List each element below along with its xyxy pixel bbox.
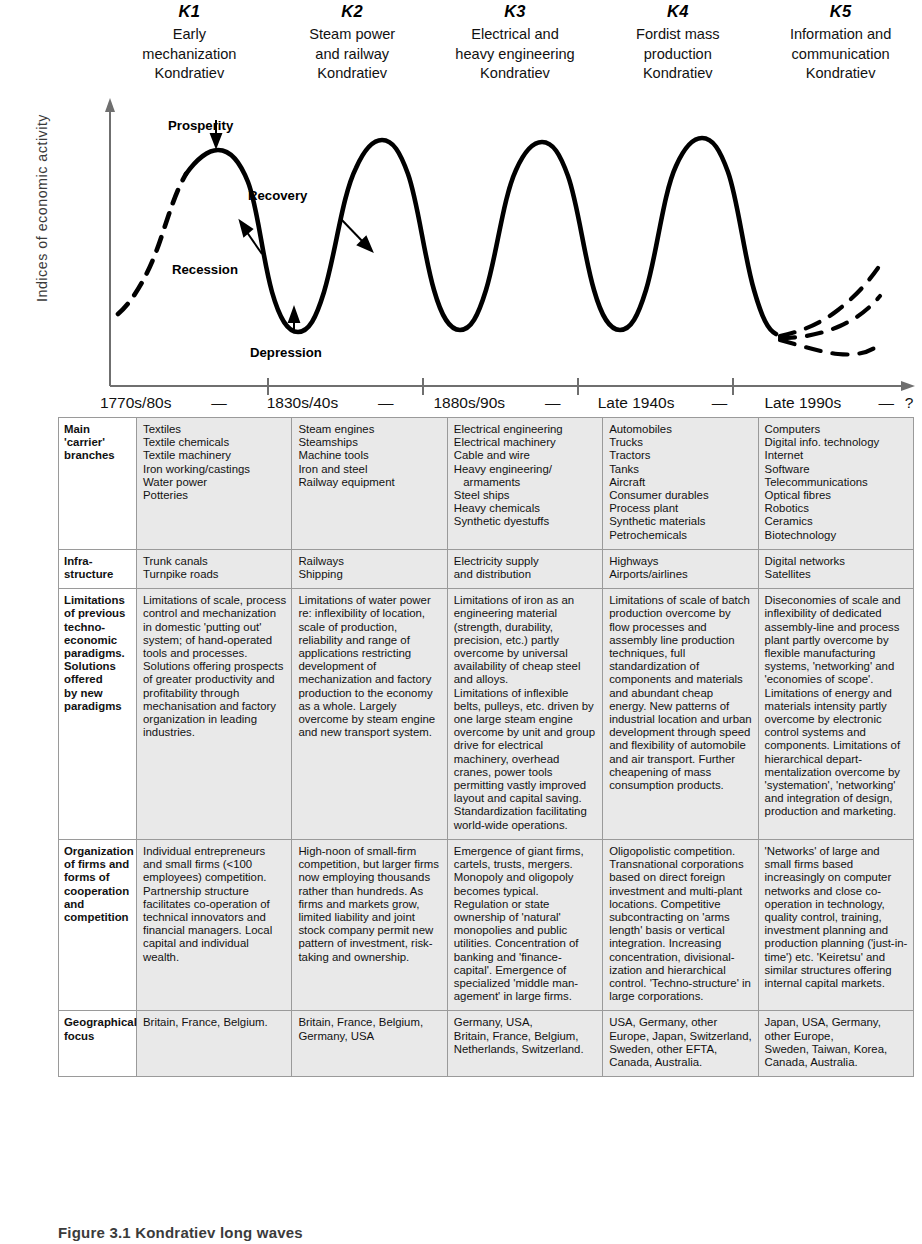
cell-organization-k2: High-noon of small-firm competition, but… [292, 839, 447, 1010]
x-tick-dash: — [209, 394, 229, 412]
cell-limitations-k3: Limitations of iron as an engineering ma… [447, 589, 602, 840]
row-label-geographical-focus: Geographical focus [59, 1011, 137, 1077]
annotation-depression: Depression [250, 345, 322, 360]
table-row: Limitations of previous techno- economic… [59, 589, 914, 840]
wave-k-label: K1 [112, 0, 267, 22]
table-row: Infra- structure Trunk canals Turnpike r… [59, 549, 914, 588]
cell-organization-k1: Individual entrepreneurs and small firms… [137, 839, 292, 1010]
x-tick-dash: — [376, 394, 396, 412]
x-tick-label-2: 1830s/40s [229, 394, 376, 412]
cell-geographical-k1: Britain, France, Belgium. [137, 1011, 292, 1077]
wave-future-branch-upper [780, 268, 878, 336]
wave-k-name: Steam power and railway Kondratiev [275, 25, 430, 84]
y-axis-arrowhead [105, 98, 115, 112]
cell-geographical-k4: USA, Germany, other Europe, Japan, Switz… [603, 1011, 758, 1077]
wave-k-label: K5 [763, 0, 918, 22]
wave-k-name: Fordist mass production Kondratiev [600, 25, 755, 84]
cell-main-carrier-k3: Electrical engineering Electrical machin… [447, 418, 602, 550]
kondratiev-wave-chart: K1 Early mechanization Kondratiev K2 Ste… [0, 0, 922, 418]
annotation-arrows [211, 120, 372, 333]
cell-limitations-k4: Limitations of scale of batch production… [603, 589, 758, 840]
x-tick-dash: — [876, 394, 896, 412]
x-tick-dash: — [543, 394, 563, 412]
cell-geographical-k5: Japan, USA, Germany, other Europe, Swede… [758, 1011, 913, 1077]
wave-plot [0, 86, 922, 406]
row-label-main-carrier-branches: Main 'carrier' branches [59, 418, 137, 550]
row-label-limitations-solutions: Limitations of previous techno- economic… [59, 589, 137, 840]
wave-main-curve [186, 138, 776, 334]
cell-geographical-k2: Britain, France, Belgium, Germany, USA [292, 1011, 447, 1077]
cell-limitations-k5: Diseconomies of scale and inflexibility … [758, 589, 913, 840]
wave-k-name: Early mechanization Kondratiev [112, 25, 267, 84]
cell-main-carrier-k5: Computers Digital info. technology Inter… [758, 418, 913, 550]
table-row: Geographical focus Britain, France, Belg… [59, 1011, 914, 1077]
wave-k-label: K3 [438, 0, 593, 22]
x-tick-label-3: 1880s/90s [396, 394, 543, 412]
cell-geographical-k3: Germany, USA, Britain, France, Belgium, … [447, 1011, 602, 1077]
cell-limitations-k2: Limitations of water power re: inflexibi… [292, 589, 447, 840]
cell-main-carrier-k2: Steam engines Steamships Machine tools I… [292, 418, 447, 550]
annotation-recovery: Recovery [248, 188, 307, 203]
annotation-prosperity: Prosperity [168, 118, 233, 133]
x-axis-arrowhead [901, 381, 915, 391]
wave-future-branch-lower [780, 340, 882, 355]
cell-organization-k4: Oligopolistic competition. Transnational… [603, 839, 758, 1010]
row-label-organization-of-firms: Organization of firms and forms of coope… [59, 839, 137, 1010]
cell-main-carrier-k4: Automobiles Trucks Tractors Tanks Aircra… [603, 418, 758, 550]
wave-dashed-lead-in [118, 174, 186, 314]
cell-infrastructure-k5: Digital networks Satellites [758, 549, 913, 588]
wave-k-label: K4 [600, 0, 755, 22]
x-tick-label-4: Late 1940s [562, 394, 709, 412]
cell-organization-k5: 'Networks' of large and small firms base… [758, 839, 913, 1010]
x-axis-tick-labels: 1770s/80s — 1830s/40s — 1880s/90s — Late… [0, 391, 922, 415]
cell-main-carrier-k1: Textiles Textile chemicals Textile machi… [137, 418, 292, 550]
wave-k-name: Information and communication Kondratiev [763, 25, 918, 84]
kondratiev-characteristics-table: Main 'carrier' branches Textiles Textile… [58, 417, 914, 1077]
table-row: Main 'carrier' branches Textiles Textile… [59, 418, 914, 550]
row-label-infrastructure: Infra- structure [59, 549, 137, 588]
wave-k-label: K2 [275, 0, 430, 22]
x-tick-label-1: 1770s/80s [62, 394, 209, 412]
cell-infrastructure-k2: Railways Shipping [292, 549, 447, 588]
cell-infrastructure-k3: Electricity supply and distribution [447, 549, 602, 588]
cell-infrastructure-k1: Trunk canals Turnpike roads [137, 549, 292, 588]
x-tick-label-question: ? [896, 394, 922, 412]
cell-limitations-k1: Limitations of scale, process control an… [137, 589, 292, 840]
cell-organization-k3: Emergence of giant firms, cartels, trust… [447, 839, 602, 1010]
wave-k-name: Electrical and heavy engineering Kondrat… [438, 25, 593, 84]
annotation-recession: Recession [172, 262, 238, 277]
table-row: Organization of firms and forms of coope… [59, 839, 914, 1010]
figure-caption: Figure 3.1 Kondratiev long waves [58, 1224, 303, 1241]
cell-infrastructure-k4: Highways Airports/airlines [603, 549, 758, 588]
x-tick-label-5: Late 1990s [729, 394, 876, 412]
x-tick-dash: — [710, 394, 730, 412]
